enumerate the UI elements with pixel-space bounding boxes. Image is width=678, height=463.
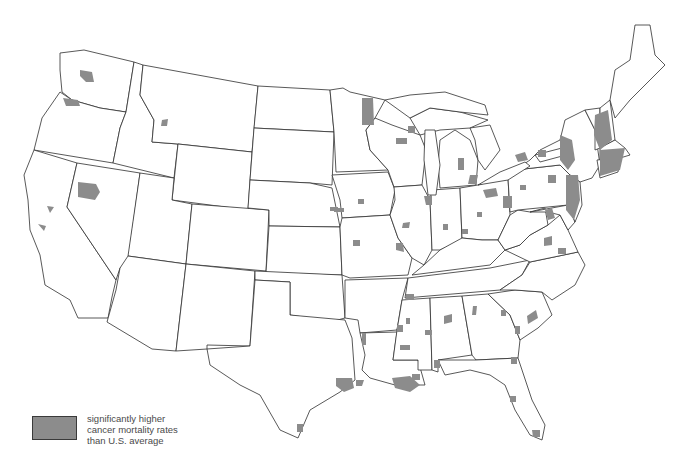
shade-ms-1: [406, 318, 410, 324]
shade-ia-1: [358, 199, 364, 204]
legend-label: significantly higher cancer mortality ra…: [87, 413, 178, 446]
shade-ne: [330, 207, 338, 211]
shade-ny-1: [515, 152, 528, 162]
shade-ms-3: [400, 345, 410, 350]
shade-pa-1: [548, 175, 556, 183]
states: [24, 25, 665, 440]
shade-ms-4: [425, 330, 432, 335]
state-kansas: [266, 226, 342, 275]
shade-minnesota: [362, 98, 374, 125]
state-florida: [438, 358, 545, 440]
legend: significantly higher cancer mortality ra…: [32, 413, 178, 446]
shade-al-mobile: [434, 360, 440, 368]
state-south-dakota: [250, 128, 334, 185]
shade-va-norfolk: [558, 248, 566, 254]
legend-line-3: than U.S. average: [87, 435, 178, 446]
shade-ar-la: [362, 333, 366, 345]
shade-mo-1: [353, 240, 360, 246]
shade-mi-1: [458, 158, 464, 170]
shade-fl-jax: [511, 357, 517, 364]
state-new-mexico: [176, 264, 255, 351]
shade-tn-memphis: [406, 294, 414, 300]
legend-line-1: significantly higher: [87, 413, 178, 424]
state-colorado: [186, 204, 269, 271]
shade-fl-miami: [532, 430, 540, 437]
shade-ga-2: [501, 310, 506, 316]
state-maine: [610, 25, 665, 118]
shade-ms-2: [397, 325, 403, 332]
shade-pa-2: [520, 185, 526, 190]
legend-line-2: cancer mortality rates: [87, 424, 178, 435]
shade-idaho: [161, 119, 168, 126]
state-wyoming: [172, 144, 252, 210]
shade-wi-1: [408, 126, 415, 133]
state-montana: [140, 65, 258, 152]
state-north-dakota: [254, 86, 334, 132]
shade-ny-2: [538, 150, 546, 157]
shade-tx-south: [297, 424, 303, 432]
shade-oh-3: [503, 196, 512, 208]
shade-ga-coast: [515, 326, 520, 334]
shade-tx-beaumont: [356, 380, 364, 386]
shade-wi-2: [396, 138, 407, 144]
us-map: [0, 0, 678, 463]
shade-ky: [462, 229, 468, 234]
shade-oh-1: [477, 212, 482, 217]
lake-michigan: [424, 130, 440, 195]
shade-new-england-2: [600, 148, 625, 176]
legend-swatch: [32, 416, 77, 440]
shade-fl-tampa: [510, 396, 516, 402]
shade-la-2: [412, 374, 420, 380]
shade-in: [443, 224, 448, 230]
